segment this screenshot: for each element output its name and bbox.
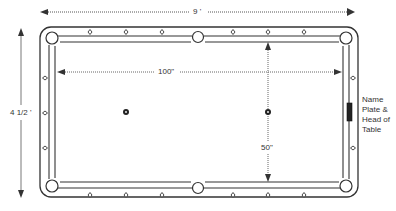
pocket-top-side: [193, 32, 204, 43]
name-plate: [347, 103, 352, 121]
note-line: Plate &: [362, 105, 390, 115]
note-line: Head of: [362, 115, 390, 125]
pocket-top-left: [46, 32, 58, 44]
diamonds: [43, 30, 356, 198]
note-line: Name: [362, 95, 390, 105]
cushions: [49, 36, 349, 188]
pockets: [46, 32, 352, 194]
playing-width-label: 50": [261, 143, 273, 152]
table-length-label: 9 ': [193, 7, 201, 16]
playing-length-label: 100": [158, 67, 174, 76]
note-line: Table: [362, 125, 390, 135]
pocket-bottom-left: [46, 180, 58, 192]
table-frame: [40, 27, 358, 197]
pool-table-diagram: 9 ' 4 1/2 ' 100" 50" Name Plate & Head o…: [0, 0, 396, 211]
table-width-label: 4 1/2 ': [10, 108, 32, 117]
playing-length-arrow: [57, 69, 342, 75]
pocket-bottom-side: [193, 183, 204, 194]
pocket-bottom-right: [340, 180, 352, 192]
pocket-top-right: [340, 32, 352, 44]
head-of-table-note: Name Plate & Head of Table: [362, 95, 390, 135]
spots: [123, 109, 271, 115]
table-drawing: [0, 0, 396, 211]
